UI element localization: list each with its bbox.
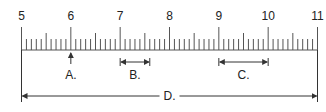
measurement-markers: A.B.C.D. [22, 50, 318, 103]
major-label: 5 [18, 9, 25, 23]
ruler-diagram: 567891011 A.B.C.D. [0, 0, 326, 112]
major-label: 10 [261, 9, 275, 23]
major-label: 9 [215, 9, 222, 23]
ruler-major-labels: 567891011 [18, 9, 324, 23]
major-label: 8 [166, 9, 173, 23]
marker-b-label: B. [129, 68, 140, 82]
ruler-ticks [22, 27, 318, 50]
major-label: 6 [67, 9, 74, 23]
marker-a-label: A. [65, 68, 76, 82]
marker-c-label: C. [238, 68, 250, 82]
major-label: 7 [117, 9, 124, 23]
marker-d-label: D. [164, 89, 176, 103]
major-label: 11 [311, 9, 324, 23]
